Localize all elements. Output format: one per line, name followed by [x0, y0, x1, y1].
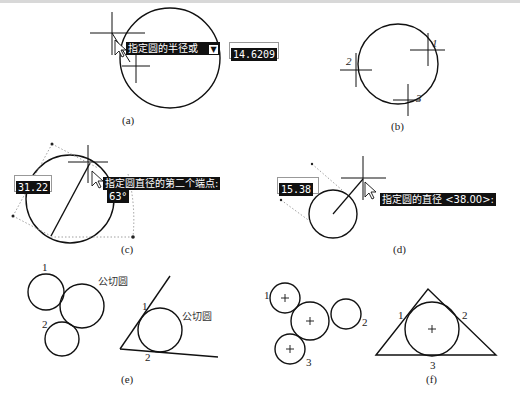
panel-e-tangent-circle-right [138, 308, 182, 352]
panel-a-circle [120, 8, 220, 108]
down-arrow-icon[interactable]: ▼ [209, 45, 218, 54]
panel-f-right-label-2: 2 [462, 309, 468, 321]
panel-f-left-label-3: 3 [306, 356, 312, 368]
panel-f-left-label-1: 1 [264, 289, 270, 301]
panel-a-tooltip: 指定圆的半径或 ▼ [126, 42, 220, 55]
panel-a-radius-input[interactable]: 14.6209 [229, 42, 279, 59]
cursor-arrow-icon [92, 40, 376, 199]
panel-b-label-1: 1 [432, 37, 438, 49]
panel-b-label-2: 2 [346, 55, 352, 67]
panel-b-caption: (b) [391, 120, 404, 132]
panel-e-right-label-2: 2 [145, 351, 151, 363]
panel-f-right-label-1: 1 [398, 309, 404, 321]
panel-c-caption: (c) [121, 243, 133, 255]
panel-e-right-label-1: 1 [142, 300, 148, 312]
panel-e-circle-1 [28, 274, 64, 310]
panel-f-circle-2 [331, 299, 361, 329]
panel-d-length-input[interactable]: 15.38 [277, 177, 319, 194]
panel-a-caption: (a) [122, 114, 134, 126]
panel-f-left-label-2: 2 [362, 316, 368, 328]
panel-e-tangent-circle [60, 284, 104, 328]
panel-f-triangle [376, 289, 496, 355]
panel-c-tooltip: 指定圆直径的第二个端点: [103, 177, 220, 190]
panel-e-left-tangent-label: 公切圆 [98, 273, 128, 288]
panel-b-label-3: 3 [416, 92, 422, 104]
panel-f-right-label-3: 3 [430, 359, 436, 371]
panel-b-circle [358, 24, 438, 104]
panel-e-circle-2 [45, 322, 79, 356]
panel-e-left-label-2: 2 [42, 318, 48, 330]
panel-e-left-label-1: 1 [42, 261, 48, 273]
panel-f-caption: (f) [426, 373, 437, 385]
panel-d-tooltip: 指定圆的直径 <38.00>: [380, 193, 496, 206]
panel-c-angle: 63° [107, 190, 129, 203]
panel-e-right-tangent-label: 公切圆 [182, 308, 212, 323]
panel-c-length-input[interactable]: 31.22 [14, 175, 52, 192]
panel-d-caption: (d) [393, 243, 406, 255]
panel-e-caption: (e) [121, 373, 133, 385]
